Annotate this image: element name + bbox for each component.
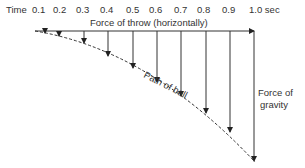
gravity-label-line1: Force of	[258, 88, 293, 98]
ball-path-curve	[35, 31, 255, 162]
gravity-label-line2: gravity	[260, 100, 288, 110]
path-of-ball-label: Path of ball	[142, 69, 189, 100]
diagram-graphics: Path of ball	[0, 0, 305, 168]
gravity-arrows	[45, 31, 254, 161]
